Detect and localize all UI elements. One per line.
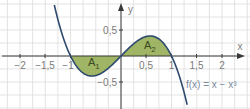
x-axis-label: x [238,41,243,52]
function-plot: −2 −1,5 −1 0,5 1 1,5 2 0,5 −0,5 x y A1 A… [0,0,250,109]
y-axis-label: y [128,4,133,15]
x-axis-arrow-icon [237,53,245,59]
plot-svg: −2 −1,5 −1 0,5 1 1,5 2 0,5 −0,5 x y A1 A… [0,0,250,109]
x-tick-label: 0,5 [139,60,153,71]
x-tick-label: −2 [14,60,26,71]
y-tick-label: 0,5 [103,25,117,36]
x-tick-label: −1,5 [35,60,55,71]
x-tick-label: −1 [62,60,74,71]
function-label: f(x) = x − x³ [186,79,237,90]
x-tick-label: 2 [219,60,225,71]
y-tick-label: −0,5 [97,77,117,88]
x-tick-label: 1,5 [190,60,204,71]
